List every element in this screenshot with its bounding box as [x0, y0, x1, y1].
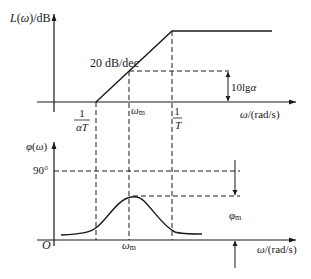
corner-high-label: 1 T — [173, 105, 182, 131]
ref-90-label: 90° — [33, 164, 48, 176]
lead-compensator-bode-diagram: L(ω)/dB 20 dB/dec 1 αT ωm 1 T 10lgα ω/(r… — [0, 0, 311, 279]
corner-low-label: 1 αT — [74, 107, 90, 133]
phase-x-label: ω/(rad/s) — [257, 243, 297, 256]
gain-label: 10lgα — [231, 81, 257, 93]
origin-label: O — [42, 238, 51, 252]
corner-low-num: 1 — [79, 107, 85, 119]
corner-high-num: 1 — [174, 105, 180, 117]
corner-high-den: T — [175, 119, 182, 131]
phase-curve — [61, 197, 202, 235]
phase-plot: φ(ω) 90° O ωm φm ω/(rad/s) — [26, 140, 297, 268]
omega-m-label-top: ωm — [131, 104, 146, 117]
omega-m-label-bottom: ωm — [122, 239, 137, 252]
magnitude-plot: L(ω)/dB 20 dB/dec 1 αT ωm 1 T 10lgα ω/(r… — [9, 11, 296, 240]
magnitude-x-label: ω/(rad/s) — [240, 108, 280, 121]
phase-max-label: φm — [229, 209, 242, 222]
corner-low-den: αT — [76, 121, 89, 133]
magnitude-y-label: L(ω)/dB — [9, 11, 51, 25]
slope-label: 20 dB/dec — [90, 56, 139, 70]
phase-y-label: φ(ω) — [26, 140, 48, 153]
